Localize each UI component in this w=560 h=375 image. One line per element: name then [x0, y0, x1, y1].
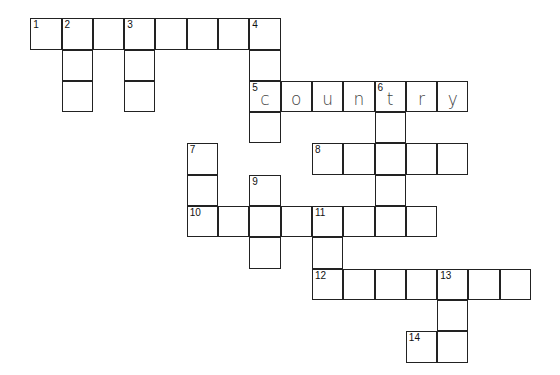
- crossword-cell[interactable]: [249, 112, 280, 143]
- clue-number: 4: [252, 20, 258, 30]
- crossword-cell[interactable]: 5c: [249, 81, 280, 112]
- crossword-cell[interactable]: [375, 206, 406, 237]
- crossword-cell[interactable]: [375, 269, 406, 300]
- crossword-cell[interactable]: [187, 18, 218, 49]
- crossword-cell[interactable]: 14: [406, 331, 437, 362]
- clue-number: 13: [440, 271, 451, 281]
- crossword-cell[interactable]: 9: [249, 175, 280, 206]
- crossword-cell[interactable]: [218, 206, 249, 237]
- crossword-cell[interactable]: [281, 206, 312, 237]
- crossword-cell[interactable]: [312, 237, 343, 268]
- crossword-cell[interactable]: [62, 50, 93, 81]
- clue-number: 8: [315, 145, 321, 155]
- crossword-cell[interactable]: [249, 50, 280, 81]
- clue-number: 12: [315, 271, 326, 281]
- crossword-cell[interactable]: 11: [312, 206, 343, 237]
- crossword-cell[interactable]: 1: [30, 18, 61, 49]
- crossword-cell[interactable]: 2: [62, 18, 93, 49]
- cell-letter: c: [250, 89, 279, 109]
- crossword-cell[interactable]: [437, 143, 468, 174]
- crossword-cell[interactable]: 12: [312, 269, 343, 300]
- crossword-cell[interactable]: [249, 206, 280, 237]
- crossword-cell[interactable]: [406, 143, 437, 174]
- clue-number: 1: [33, 20, 39, 30]
- crossword-cell[interactable]: [124, 81, 155, 112]
- crossword-cell[interactable]: [437, 300, 468, 331]
- cell-letter: t: [376, 89, 405, 109]
- clue-number: 2: [65, 20, 71, 30]
- clue-number: 7: [190, 145, 196, 155]
- crossword-cell[interactable]: [468, 269, 499, 300]
- crossword-cell[interactable]: 13: [437, 269, 468, 300]
- crossword-cell[interactable]: 10: [187, 206, 218, 237]
- clue-number: 14: [409, 333, 420, 343]
- crossword-cell[interactable]: [500, 269, 531, 300]
- crossword-cell[interactable]: [406, 269, 437, 300]
- crossword-cell[interactable]: [62, 81, 93, 112]
- crossword-cell[interactable]: [375, 112, 406, 143]
- crossword-cell[interactable]: [218, 18, 249, 49]
- crossword-cell[interactable]: [187, 175, 218, 206]
- crossword-cell[interactable]: [249, 237, 280, 268]
- crossword-cell[interactable]: [343, 269, 374, 300]
- crossword-cell[interactable]: [406, 206, 437, 237]
- crossword-grid: 12345coun6try7891011121314: [0, 0, 560, 375]
- cell-letter: u: [313, 89, 342, 109]
- crossword-cell[interactable]: 6t: [375, 81, 406, 112]
- clue-number: 9: [252, 177, 258, 187]
- crossword-cell[interactable]: [155, 18, 186, 49]
- crossword-cell[interactable]: [375, 143, 406, 174]
- cell-letter: y: [438, 89, 467, 109]
- clue-number: 3: [127, 20, 133, 30]
- crossword-cell[interactable]: o: [281, 81, 312, 112]
- crossword-cell[interactable]: [343, 206, 374, 237]
- crossword-cell[interactable]: 8: [312, 143, 343, 174]
- crossword-cell[interactable]: n: [343, 81, 374, 112]
- crossword-cell[interactable]: 3: [124, 18, 155, 49]
- crossword-cell[interactable]: [93, 18, 124, 49]
- crossword-cell[interactable]: u: [312, 81, 343, 112]
- crossword-cell[interactable]: [124, 50, 155, 81]
- crossword-cell[interactable]: [375, 175, 406, 206]
- crossword-cell[interactable]: [437, 331, 468, 362]
- clue-number: 10: [190, 208, 201, 218]
- crossword-cell[interactable]: [343, 143, 374, 174]
- cell-letter: o: [282, 89, 311, 109]
- cell-letter: r: [407, 89, 436, 109]
- crossword-cell[interactable]: 4: [249, 18, 280, 49]
- cell-letter: n: [344, 89, 373, 109]
- crossword-cell[interactable]: 7: [187, 143, 218, 174]
- crossword-cell[interactable]: y: [437, 81, 468, 112]
- clue-number: 11: [315, 208, 325, 218]
- crossword-cell[interactable]: r: [406, 81, 437, 112]
